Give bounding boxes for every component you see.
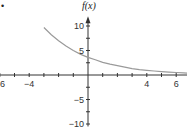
y-axis-arrow-icon <box>86 16 91 23</box>
f-of-x-curve <box>44 28 187 74</box>
y-tick-label: −5 <box>74 95 84 105</box>
chart: • −6−446105−5−10xf(x) <box>0 0 187 137</box>
x-tick-label: 4 <box>144 79 149 89</box>
y-tick-label: 5 <box>79 46 84 56</box>
y-tick-label: −10 <box>69 119 84 129</box>
y-axis-label: f(x) <box>82 0 97 12</box>
x-tick-label: −4 <box>24 79 34 89</box>
axis-labels: −6−446105−5−10xf(x) <box>0 0 187 129</box>
x-tick-label: −6 <box>0 79 5 89</box>
x-tick-label: 6 <box>174 79 179 89</box>
y-tick-label: 10 <box>74 21 84 31</box>
bullet-marker: • <box>1 1 4 11</box>
data-curve <box>44 28 187 74</box>
